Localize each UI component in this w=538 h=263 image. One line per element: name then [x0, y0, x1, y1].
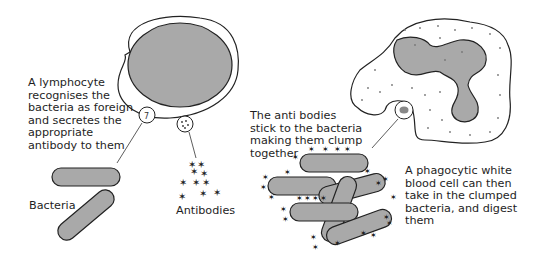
- svg-text:✶: ✶: [390, 193, 397, 202]
- svg-text:✶: ✶: [192, 177, 200, 188]
- svg-text:✶: ✶: [364, 167, 371, 176]
- svg-text:✶: ✶: [268, 193, 275, 202]
- svg-text:✶: ✶: [334, 239, 341, 248]
- svg-text:✶: ✶: [190, 166, 198, 177]
- svg-text:✶: ✶: [320, 194, 327, 203]
- antibody-vesicle-icon: [177, 116, 193, 132]
- antibodies-label: Antibodies: [176, 205, 235, 218]
- svg-text:✶: ✶: [312, 243, 319, 252]
- leader-line: [189, 132, 196, 158]
- svg-text:✶: ✶: [284, 168, 291, 177]
- phagocyte-cell: [351, 19, 511, 143]
- vesicle-icon: 7: [139, 107, 155, 123]
- svg-text:✶: ✶: [199, 188, 207, 199]
- svg-text:✶: ✶: [178, 191, 186, 202]
- svg-text:✶: ✶: [262, 173, 269, 182]
- bacteria-label: Bacteria: [29, 200, 76, 213]
- svg-text:✶: ✶: [360, 229, 367, 238]
- svg-text:✶: ✶: [260, 183, 267, 192]
- svg-text:✶: ✶: [280, 205, 287, 214]
- antibodies-icon: ✶✶ ✶✶ ✶✶✶ ✶✶ ✶: [178, 159, 221, 202]
- svg-text:✶: ✶: [304, 194, 311, 203]
- engulfed-clump-icon: [395, 101, 413, 119]
- svg-text:✶: ✶: [370, 231, 377, 240]
- svg-text:✶: ✶: [310, 233, 317, 242]
- svg-text:7: 7: [144, 112, 149, 121]
- lymphocyte-label: A lymphocyte recognises the bacteria as …: [28, 77, 133, 153]
- svg-text:✶: ✶: [382, 175, 389, 184]
- svg-text:✶: ✶: [312, 194, 319, 203]
- svg-text:✶: ✶: [375, 179, 382, 188]
- lymphocyte-cell: [118, 16, 238, 118]
- phagocyte-label: A phagocytic white blood cell can then t…: [405, 165, 517, 228]
- svg-text:✶: ✶: [213, 187, 221, 198]
- svg-text:✶: ✶: [386, 219, 393, 228]
- svg-text:✶: ✶: [296, 194, 303, 203]
- leader-line: [372, 119, 398, 148]
- svg-text:✶: ✶: [179, 177, 187, 188]
- svg-text:✶: ✶: [282, 215, 289, 224]
- clumping-label: The anti bodies stick to the bacteria ma…: [250, 110, 362, 160]
- svg-text:✶: ✶: [202, 177, 210, 188]
